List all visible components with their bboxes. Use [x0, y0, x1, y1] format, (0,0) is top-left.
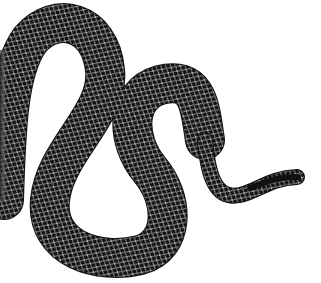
left-edge-shading — [0, 50, 6, 200]
snake-illustration: Black snake with white net-like scale pa… — [0, 0, 321, 283]
snake-body — [0, 0, 321, 283]
